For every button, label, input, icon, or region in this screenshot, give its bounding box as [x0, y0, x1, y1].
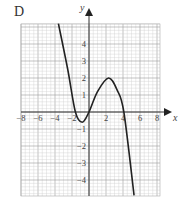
svg-text:−6: −6 — [33, 113, 42, 123]
cubic-graph: −8−6−4−224684321−1−2−3−4xy — [0, 0, 183, 207]
svg-text:6: 6 — [138, 113, 142, 123]
svg-text:2: 2 — [82, 73, 86, 83]
svg-text:−1: −1 — [77, 124, 86, 134]
svg-text:3: 3 — [82, 56, 86, 66]
svg-text:2: 2 — [104, 113, 108, 123]
svg-text:−2: −2 — [67, 113, 76, 123]
svg-text:−2: −2 — [77, 141, 86, 151]
svg-text:1: 1 — [82, 90, 86, 100]
svg-text:y: y — [79, 2, 85, 13]
svg-text:8: 8 — [155, 113, 159, 123]
svg-text:−8: −8 — [16, 113, 25, 123]
svg-text:x: x — [172, 112, 178, 123]
svg-text:−3: −3 — [77, 158, 86, 168]
svg-text:−4: −4 — [77, 175, 87, 185]
svg-text:−4: −4 — [50, 113, 60, 123]
